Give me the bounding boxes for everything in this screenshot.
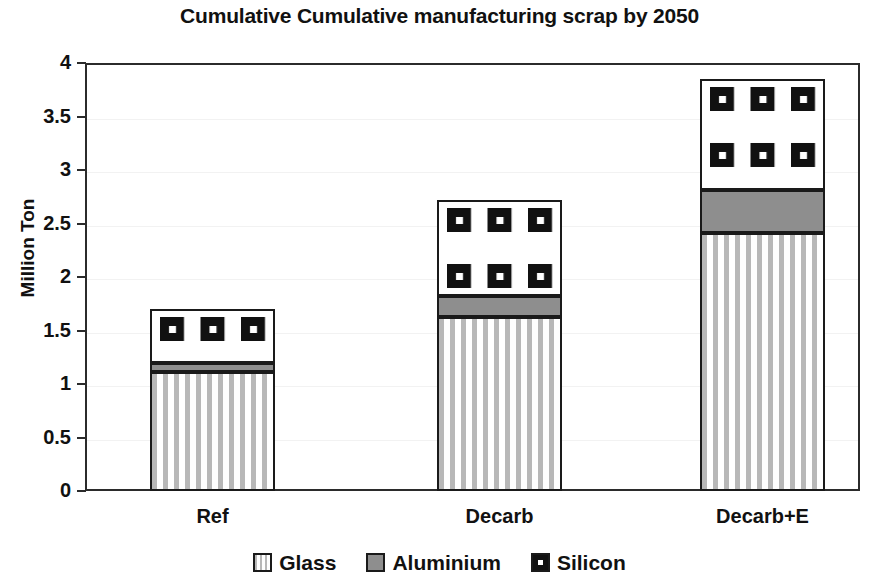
x-axis-tick-label: Ref — [103, 505, 323, 528]
y-axis-tick-label: 2.5 — [0, 213, 71, 233]
y-axis-tick — [77, 276, 86, 278]
legend-item-aluminium[interactable]: Aluminium — [366, 552, 501, 573]
segment-aluminium — [437, 296, 562, 316]
x-axis-tick-label: Decarb — [390, 505, 610, 528]
y-axis-tick — [77, 383, 86, 385]
silicon-swatch-icon — [531, 553, 550, 572]
y-axis-tick-label: 3.5 — [0, 106, 71, 126]
bar-ref — [150, 63, 275, 491]
y-axis-tick-label: 3 — [0, 159, 71, 179]
chart-legend: GlassAluminiumSilicon — [0, 552, 879, 573]
segment-glass — [437, 317, 562, 491]
y-axis-tick — [77, 62, 86, 64]
bar-decarb — [437, 63, 562, 491]
y-axis-tick — [77, 116, 86, 118]
segment-silicon — [437, 200, 562, 296]
y-axis-tick-label: 4 — [0, 52, 71, 72]
y-axis-title: Million Ton — [17, 158, 39, 338]
y-axis-tick-label: 0.5 — [0, 427, 71, 447]
segment-aluminium — [700, 190, 825, 233]
segment-glass — [700, 233, 825, 491]
segment-aluminium — [150, 363, 275, 373]
y-axis-tick-label: 0 — [0, 480, 71, 500]
y-axis-tick — [77, 169, 86, 171]
legend-item-glass[interactable]: Glass — [253, 552, 336, 573]
aluminium-swatch-icon — [366, 553, 385, 572]
legend-label: Silicon — [557, 552, 626, 573]
y-axis-tick-label: 1 — [0, 373, 71, 393]
stacked-bar-chart: Cumulative Cumulative manufacturing scra… — [0, 0, 879, 585]
segment-silicon — [700, 79, 825, 190]
y-axis-tick-label: 2 — [0, 266, 71, 286]
y-axis-tick — [77, 330, 86, 332]
y-axis-tick — [77, 490, 86, 492]
legend-label: Aluminium — [392, 552, 501, 573]
segment-glass — [150, 372, 275, 491]
legend-item-silicon[interactable]: Silicon — [531, 552, 626, 573]
x-axis-tick-label: Decarb+E — [653, 505, 873, 528]
y-axis-tick — [77, 223, 86, 225]
chart-title: Cumulative Cumulative manufacturing scra… — [0, 4, 879, 28]
bar-decarb-plus-e — [700, 63, 825, 491]
glass-swatch-icon — [253, 553, 272, 572]
segment-silicon — [150, 309, 275, 363]
legend-label: Glass — [279, 552, 336, 573]
y-axis-tick-label: 1.5 — [0, 320, 71, 340]
y-axis-tick — [77, 437, 86, 439]
